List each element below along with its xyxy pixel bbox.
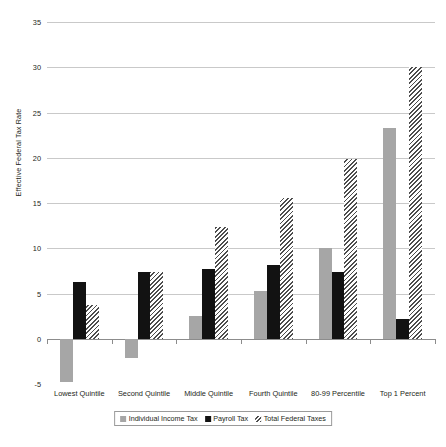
gridline xyxy=(47,113,435,114)
bar-chart: Effective Federal Tax Rate -505101520253… xyxy=(0,0,446,447)
y-tick-label: 35 xyxy=(33,18,41,27)
bar-income xyxy=(125,339,138,358)
y-tick-label: 30 xyxy=(33,63,41,72)
x-axis-label: Lowest Quintile xyxy=(54,389,105,398)
bar-income xyxy=(319,248,332,339)
x-axis-label: Second Quintile xyxy=(118,389,170,398)
bar-group xyxy=(125,22,164,384)
bar-total xyxy=(409,67,422,339)
y-tick-label: 25 xyxy=(33,108,41,117)
x-axis-label: Top 1 Percent xyxy=(380,389,426,398)
x-axis-label: 80-99 Percentile xyxy=(311,389,365,398)
x-axis-tick xyxy=(176,339,177,344)
gridline xyxy=(47,248,435,249)
bar-payroll xyxy=(138,272,151,339)
chart-legend: Individual Income TaxPayroll TaxTotal Fe… xyxy=(114,411,332,426)
legend-swatch-payroll xyxy=(205,416,211,422)
x-axis-tick xyxy=(306,339,307,344)
bar-income xyxy=(60,339,73,382)
x-axis-tick xyxy=(47,339,48,344)
gridline xyxy=(47,158,435,159)
bar-group xyxy=(189,22,228,384)
bar-income xyxy=(189,316,202,339)
legend-swatch-total xyxy=(255,416,261,422)
bar-total xyxy=(86,305,99,338)
y-axis-title: Effective Federal Tax Rate xyxy=(14,83,23,223)
x-axis-label: Fourth Quintile xyxy=(249,389,297,398)
bar-group xyxy=(60,22,99,384)
y-tick-label: -5 xyxy=(34,380,41,389)
bar-payroll xyxy=(396,319,409,339)
bar-income xyxy=(383,128,396,339)
y-tick-label: 15 xyxy=(33,199,41,208)
x-axis-tick xyxy=(112,339,113,344)
y-tick-label: 10 xyxy=(33,244,41,253)
gridline xyxy=(47,22,435,23)
bar-payroll xyxy=(73,282,86,339)
bar-total xyxy=(215,227,228,338)
bar-income xyxy=(254,291,267,339)
bar-payroll xyxy=(202,269,215,339)
x-axis-label: Middle Quintile xyxy=(184,389,233,398)
gridline xyxy=(47,67,435,68)
y-tick-label: 0 xyxy=(37,334,41,343)
legend-item[interactable]: Payroll Tax xyxy=(205,414,249,423)
legend-swatch-income xyxy=(120,416,126,422)
x-axis-tick xyxy=(370,339,371,344)
bar-total xyxy=(150,272,163,339)
bar-payroll xyxy=(267,265,280,338)
gridline xyxy=(47,294,435,295)
plot-area: -505101520253035 xyxy=(47,22,435,384)
x-axis-tick xyxy=(241,339,242,344)
legend-item[interactable]: Total Federal Taxes xyxy=(255,414,326,423)
y-tick-label: 5 xyxy=(37,289,41,298)
legend-label: Total Federal Taxes xyxy=(264,414,326,423)
x-axis-labels: Lowest QuintileSecond QuintileMiddle Qui… xyxy=(47,389,435,401)
bar-payroll xyxy=(332,272,345,339)
legend-item[interactable]: Individual Income Tax xyxy=(120,414,198,423)
bar-group xyxy=(319,22,358,384)
legend-label: Payroll Tax xyxy=(213,414,248,423)
y-tick-label: 20 xyxy=(33,153,41,162)
gridline xyxy=(47,203,435,204)
bar-total xyxy=(280,198,293,339)
legend-label: Individual Income Tax xyxy=(129,414,198,423)
bar-group xyxy=(254,22,293,384)
bar-total xyxy=(344,159,357,339)
x-axis-tick xyxy=(435,339,436,344)
bar-group xyxy=(383,22,422,384)
